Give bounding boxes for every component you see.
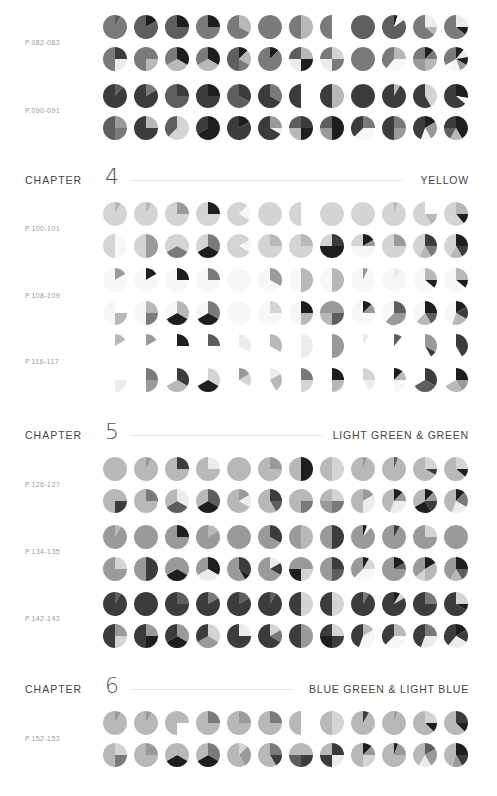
pie-slice xyxy=(177,202,189,214)
pie-chart xyxy=(134,592,158,616)
pie-slice xyxy=(425,59,437,71)
pie-slice xyxy=(146,234,158,258)
pie-chart xyxy=(320,202,344,226)
pie-chart xyxy=(134,116,158,140)
pie-chart xyxy=(413,457,437,481)
pie-chart xyxy=(270,334,282,352)
pie-slice xyxy=(134,47,146,71)
pie-chart xyxy=(456,334,468,356)
pie-chart xyxy=(320,457,344,481)
pie-slice xyxy=(425,15,437,27)
pie-chart xyxy=(165,711,189,735)
pie-slice xyxy=(456,334,468,356)
pie-slice xyxy=(332,47,344,59)
pie-chart xyxy=(227,743,251,767)
pie-chart xyxy=(258,489,282,513)
pie-slice xyxy=(320,234,332,246)
pie-chart xyxy=(394,368,406,392)
pie-chart xyxy=(320,624,344,648)
pie-slice xyxy=(134,592,158,616)
pie-slice xyxy=(320,501,332,513)
pie-chart xyxy=(258,15,282,39)
pie-chart xyxy=(320,711,344,735)
pie-slice xyxy=(289,457,301,481)
pie-chart xyxy=(444,557,468,581)
pie-chart xyxy=(165,47,189,71)
pie-chart xyxy=(165,234,189,258)
pie-chart xyxy=(270,368,282,390)
pie-chart xyxy=(301,368,313,392)
pie-slice xyxy=(301,15,313,39)
pie-slice xyxy=(332,624,344,636)
pie-chart xyxy=(320,301,344,325)
pie-slice xyxy=(456,557,468,569)
pie-slice xyxy=(363,755,375,767)
pie-slice xyxy=(146,380,158,392)
pie-chart xyxy=(258,457,282,481)
pie-chart xyxy=(446,368,468,392)
pie-slice xyxy=(115,557,127,569)
pie-chart xyxy=(289,489,313,513)
pie-slice xyxy=(351,202,375,226)
pie-slice xyxy=(320,301,332,313)
pie-slice xyxy=(208,84,220,96)
pie-slice xyxy=(270,457,282,469)
pie-slice xyxy=(115,380,127,392)
pie-slice xyxy=(239,624,251,636)
pie-chart xyxy=(289,592,313,616)
pie-slice xyxy=(270,334,282,352)
pie-slice xyxy=(289,116,301,128)
pie-chart xyxy=(165,489,189,513)
pie-chart xyxy=(289,557,313,581)
pie-slice xyxy=(320,128,332,140)
pie-slice xyxy=(115,59,127,71)
pie-chart xyxy=(413,116,437,140)
pie-slice xyxy=(456,202,468,214)
pie-slice xyxy=(208,457,220,469)
pie-slice xyxy=(332,569,344,581)
pie-chart xyxy=(103,525,127,549)
pie-slice xyxy=(351,15,375,39)
pie-slice xyxy=(425,234,437,246)
pie-chart xyxy=(320,489,344,513)
pie-chart xyxy=(289,116,313,140)
pie-slice xyxy=(103,624,115,648)
pie-slice xyxy=(320,15,332,39)
pie-slice xyxy=(332,755,344,767)
pie-slice xyxy=(115,47,127,59)
pie-chart xyxy=(413,234,437,258)
pie-slice xyxy=(456,84,468,98)
pie-slice xyxy=(301,368,313,380)
pie-slice xyxy=(382,268,406,292)
pie-chart xyxy=(394,334,402,346)
pie-slice xyxy=(270,743,282,755)
pie-slice xyxy=(115,636,127,648)
pie-chart xyxy=(134,268,158,292)
pie-chart xyxy=(444,15,468,39)
pie-slice xyxy=(351,84,375,108)
pie-slice xyxy=(301,301,313,313)
pie-chart xyxy=(258,624,282,648)
pie-chart xyxy=(351,457,375,481)
pie-chart xyxy=(134,525,158,549)
pie-chart xyxy=(196,457,220,481)
pie-slice xyxy=(332,234,344,246)
pie-slice xyxy=(134,624,146,648)
pie-chart xyxy=(165,525,189,549)
pie-slice xyxy=(289,202,301,226)
pie-chart xyxy=(289,234,313,258)
pie-chart xyxy=(103,47,127,71)
pie-slice xyxy=(301,128,313,140)
pie-slice xyxy=(301,501,313,513)
pie-slice xyxy=(301,380,313,392)
pie-chart xyxy=(351,525,375,549)
pie-slice xyxy=(146,557,158,581)
pie-chart xyxy=(258,268,282,292)
pie-slice xyxy=(332,84,344,108)
pie-chart xyxy=(227,557,251,581)
pie-slice xyxy=(289,743,301,755)
pie-chart xyxy=(289,743,313,767)
pie-slice xyxy=(394,301,406,313)
pie-slice xyxy=(456,743,468,755)
pie-chart xyxy=(289,268,313,292)
